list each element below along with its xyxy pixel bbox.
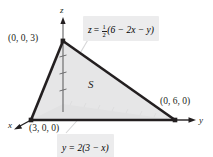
- plane-equation-equals: =: [94, 25, 99, 35]
- plane-equation-rhs: (6 − 2x − y): [107, 25, 154, 35]
- axis-label-x: x: [8, 121, 12, 130]
- figure-3d-plane-surface: z y x (0, 0, 3) (3, 0, 0) (0, 6, 0) S z=…: [0, 0, 213, 157]
- axis-y: [175, 117, 196, 123]
- plane-equation-callout: z=12(6 − 2x − y): [83, 16, 159, 41]
- axis-label-z: z: [60, 6, 64, 15]
- surface-region-S: [31, 41, 175, 120]
- point-label-y-intercept: (0, 6, 0): [160, 97, 190, 107]
- plane-equation-text: z=12(6 − 2x − y): [88, 25, 154, 35]
- base-line-equation-callout: y = 2(3 − x): [57, 134, 114, 157]
- point-label-x-intercept: (3, 0, 0): [29, 124, 59, 134]
- point-label-z-intercept: (0, 0, 3): [8, 34, 38, 44]
- base-line-equation-text: y = 2(3 − x): [62, 143, 109, 153]
- plane-equation-lhs: z: [88, 25, 92, 35]
- surface-label-S: S: [88, 79, 94, 90]
- axis-label-y: y: [199, 116, 203, 125]
